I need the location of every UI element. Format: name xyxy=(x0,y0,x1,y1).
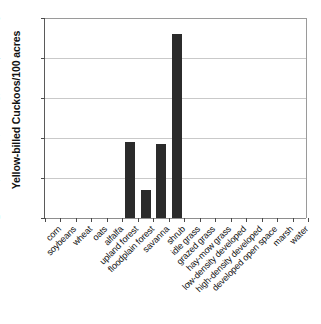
x-tick-mark xyxy=(246,218,247,222)
x-tick-mark xyxy=(45,218,46,222)
x-tick-mark xyxy=(122,218,123,222)
x-tick-mark xyxy=(277,218,278,222)
x-tick-mark xyxy=(184,218,185,222)
plot-area xyxy=(44,18,307,218)
x-tick-label: idle grass xyxy=(169,224,202,257)
x-tick-label: alfalfa xyxy=(101,224,124,247)
x-tick-mark xyxy=(293,218,294,222)
gridline-0 xyxy=(45,218,306,219)
x-tick-mark xyxy=(138,218,139,222)
x-tick-label: shrub xyxy=(164,224,186,246)
x-tick-mark xyxy=(215,218,216,222)
x-tick-mark xyxy=(153,218,154,222)
x-tick-label: low-density developed xyxy=(181,224,249,292)
x-tick-label: oats xyxy=(91,224,110,243)
x-tick-label: soybeans xyxy=(45,224,78,257)
bar xyxy=(141,190,151,218)
y-tick-mark-5 xyxy=(41,18,45,19)
x-tick-label: grazed grass xyxy=(175,224,218,267)
x-tick-mark xyxy=(308,218,309,222)
bar xyxy=(125,142,135,218)
bar xyxy=(172,34,182,218)
gridline-5 xyxy=(45,18,306,19)
x-tick-label: wheat xyxy=(70,224,94,248)
x-tick-label: hay-mow grass xyxy=(184,224,233,273)
x-tick-mark xyxy=(60,218,61,222)
x-tick-label: floodplain forest xyxy=(105,224,155,274)
x-tick-label: savanna xyxy=(141,224,171,254)
x-tick-label: corn xyxy=(44,224,63,243)
y-tick-mark-4 xyxy=(41,58,45,59)
x-tick-label: high-density developed xyxy=(194,224,264,294)
x-tick-mark xyxy=(91,218,92,222)
x-tick-mark xyxy=(262,218,263,222)
y-axis-title: Yellow-billed Cuckoos/100 acres xyxy=(10,5,22,215)
x-tick-label: upland forest xyxy=(98,224,140,266)
x-tick-label: developed open space xyxy=(210,224,279,293)
x-tick-mark xyxy=(76,218,77,222)
x-tick-mark xyxy=(231,218,232,222)
x-tick-mark xyxy=(107,218,108,222)
x-tick-mark xyxy=(169,218,170,222)
x-tick-label: water xyxy=(288,224,310,246)
bar-chart-figure: Yellow-billed Cuckoos/100 acres 012345 c… xyxy=(0,0,321,324)
x-tick-mark xyxy=(200,218,201,222)
x-tick-label: marsh xyxy=(271,224,295,248)
y-tick-mark-1 xyxy=(41,178,45,179)
y-tick-mark-3 xyxy=(41,98,45,99)
y-tick-mark-2 xyxy=(41,138,45,139)
bar xyxy=(156,144,166,218)
